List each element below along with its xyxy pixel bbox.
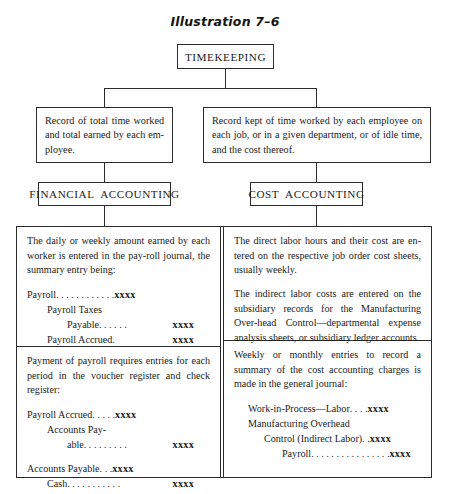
entry-payroll-accrual: Payroll. . . . . . . . . . . .xxxx Payro… — [27, 287, 210, 348]
entry-leader: . . . . — [350, 401, 368, 416]
node-right-record: Record kept of time worked by each emplo… — [203, 107, 431, 163]
entry-leader: . . . . . . . . . — [84, 437, 127, 452]
entry-credit: xxxx — [173, 437, 210, 452]
figure-title: Illustration 7–6 — [0, 14, 450, 29]
entry-leader: . . — [362, 431, 370, 446]
cell-cost-top-paragraph-2: The indirect labor costs are entered on … — [234, 287, 421, 346]
entry-row: Accounts Payable. . .xxxx — [27, 461, 210, 476]
entry-debit: xxxx — [115, 407, 136, 422]
entry-row: Control (Indirect Labor). .xxxx — [234, 431, 421, 446]
entry-debit: xxxx — [114, 287, 135, 302]
entry-account: able — [67, 437, 84, 452]
connector-split-bar — [104, 88, 316, 89]
cell-financial-bottom: Payment of payroll requires entries for … — [17, 347, 220, 478]
entry-account: Control (Indirect Labor) — [264, 431, 362, 446]
connector-left-heading-stem — [104, 206, 105, 226]
node-timekeeping: TIMEKEEPING — [177, 44, 274, 69]
node-timekeeping-label: TIMEKEEPING — [185, 51, 266, 63]
entry-account: Accounts Pay- — [47, 422, 106, 437]
node-cost-accounting: COST ACCOUNTING — [250, 182, 363, 206]
entry-credit: xxxx — [173, 332, 210, 347]
node-left-record-text: Record of total time worked and total ea… — [45, 115, 164, 155]
connector-left-record-stem — [104, 163, 105, 182]
detail-matrix: The daily or weekly amount earned by eac… — [16, 226, 432, 478]
entry-account: Payroll Taxes — [47, 302, 102, 317]
entry-account: Payroll Accrued — [27, 407, 92, 422]
cell-cost-top-paragraph-1: The direct labor hours and their cost ar… — [234, 234, 421, 278]
entry-spacer — [27, 452, 210, 461]
entry-leader: . . . . . . — [99, 317, 127, 332]
entry-credit: xxxx — [389, 446, 426, 461]
node-financial-accounting: FINANCIAL ACCOUNTING — [38, 182, 171, 206]
entry-credit: xxxx — [173, 476, 210, 491]
cell-cost-top: The direct labor hours and their cost ar… — [224, 227, 431, 340]
entry-row: able. . . . . . . . .xxxx — [27, 437, 210, 452]
entry-account: Work-in-Process—Labor — [248, 401, 350, 416]
node-cost-accounting-label: COST ACCOUNTING — [248, 188, 364, 200]
entry-row: Accounts Pay- — [27, 422, 210, 437]
cell-cost-bottom: Weekly or monthly entries to record a su… — [224, 341, 431, 478]
entry-leader: . . . . . . . . . . . . — [56, 287, 114, 302]
entry-credit: xxxx — [173, 317, 210, 332]
cell-cost-bottom-paragraph: Weekly or monthly entries to record a su… — [234, 348, 421, 392]
entry-row: Payroll Taxes — [27, 302, 210, 317]
entry-cost-summary: Work-in-Process—Labor. . . .xxxx Manufac… — [234, 401, 421, 462]
entry-debit: xxxx — [370, 431, 391, 446]
cell-financial-top-paragraph: The daily or weekly amount earned by eac… — [27, 234, 210, 278]
node-left-record: Record of total time worked and total ea… — [36, 107, 173, 163]
cell-financial-top: The daily or weekly amount earned by eac… — [17, 227, 220, 346]
entry-account: Payroll Accrued. — [47, 332, 115, 347]
connector-right-drop — [316, 88, 317, 107]
entry-leader: . . . . . . . . . . . — [67, 476, 120, 491]
illustration-page: Illustration 7–6 TIMEKEEPING Record of t… — [0, 0, 450, 494]
entry-row: Payable. . . . . .xxxx — [27, 317, 210, 332]
entry-account: Payable — [67, 317, 99, 332]
entry-debit: xxxx — [112, 461, 133, 476]
connector-left-drop — [104, 88, 105, 107]
entry-row: Cash. . . . . . . . . . .xxxx — [27, 476, 210, 491]
entry-account: Accounts Payable — [27, 461, 100, 476]
entry-row: Manufacturing Overhead — [234, 416, 421, 431]
connector-right-heading-stem — [316, 206, 317, 226]
entry-leader: . . . — [100, 461, 113, 476]
entry-account: Payroll — [27, 287, 56, 302]
connector-root-stem — [225, 69, 226, 88]
entry-leader: . . . . . . . . . . . . . . . . — [311, 446, 389, 461]
node-financial-accounting-label: FINANCIAL ACCOUNTING — [29, 188, 179, 200]
entry-payroll-payment: Payroll Accrued. . . . .xxxx Accounts Pa… — [27, 407, 210, 492]
entry-row: Payroll. . . . . . . . . . . . . . . .xx… — [234, 446, 421, 461]
entry-row: Payroll. . . . . . . . . . . .xxxx — [27, 287, 210, 302]
entry-leader: . . . . . — [92, 407, 115, 422]
entry-row: Work-in-Process—Labor. . . .xxxx — [234, 401, 421, 416]
cell-financial-bottom-paragraph: Payment of payroll requires entries for … — [27, 354, 210, 398]
connector-right-record-stem — [316, 163, 317, 182]
entry-row: Payroll Accrued. . . . .xxxx — [27, 407, 210, 422]
node-right-record-text: Record kept of time worked by each emplo… — [212, 115, 422, 155]
matrix-vertical-divider-outer — [220, 227, 221, 477]
entry-account: Cash — [47, 476, 67, 491]
entry-account: Manufacturing Overhead — [248, 416, 350, 431]
entry-debit: xxxx — [367, 401, 388, 416]
entry-account: Payroll — [282, 446, 311, 461]
entry-row: Payroll Accrued.xxxx — [27, 332, 210, 347]
